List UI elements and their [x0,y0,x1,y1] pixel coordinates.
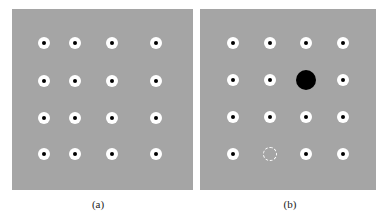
caption-a: (a) [92,198,104,210]
ring-marker-icon [337,111,349,123]
ring-marker-icon [227,111,239,123]
ring-marker-icon [150,148,162,160]
ring-marker-icon [150,112,162,124]
ring-marker-icon [106,75,118,87]
ring-marker-icon [337,148,349,160]
ring-marker-icon [38,75,50,87]
ring-marker-icon [38,37,50,49]
ring-marker-icon [106,37,118,49]
ring-marker-icon [337,74,349,86]
ring-marker-icon [300,37,312,49]
ring-marker-icon [227,74,239,86]
ring-marker-icon [264,111,276,123]
ring-marker-icon [38,148,50,160]
ring-marker-icon [69,75,81,87]
target-circle-icon [296,70,316,90]
ring-marker-icon [69,148,81,160]
ring-marker-icon [227,148,239,160]
ring-marker-icon [150,37,162,49]
ring-marker-icon [69,112,81,124]
ring-marker-icon [150,75,162,87]
ring-marker-icon [337,37,349,49]
ring-marker-icon [38,112,50,124]
ring-marker-icon [264,37,276,49]
panel-a [12,9,193,190]
ring-marker-icon [300,148,312,160]
empty-dashed-circle-icon [263,147,277,161]
ring-marker-icon [300,111,312,123]
ring-marker-icon [227,37,239,49]
ring-marker-icon [106,112,118,124]
ring-marker-icon [69,37,81,49]
ring-marker-icon [264,74,276,86]
panel-b [200,9,376,190]
caption-b: (b) [284,198,297,210]
ring-marker-icon [106,148,118,160]
